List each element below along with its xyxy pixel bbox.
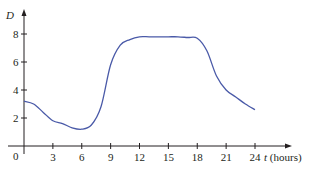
- origin-label: 0: [13, 150, 19, 162]
- x-tick-label: 3: [50, 151, 56, 163]
- y-tick-label: 4: [13, 84, 19, 96]
- x-tick-label: 6: [79, 151, 85, 163]
- x-tick-label: 12: [134, 151, 145, 163]
- y-tick-label: 6: [13, 56, 19, 68]
- y-ticks: 2468: [13, 28, 27, 124]
- x-tick-label: 24: [250, 151, 262, 163]
- x-tick-label: 18: [192, 151, 204, 163]
- x-tick-label: 15: [163, 151, 175, 163]
- x-axis-var: t: [264, 151, 268, 163]
- x-tick-label: 9: [108, 151, 114, 163]
- y-tick-label: 2: [13, 112, 19, 124]
- y-axis-arrow-icon: [22, 9, 27, 16]
- x-axis-label: t (hours): [264, 151, 302, 164]
- y-tick-label: 8: [13, 28, 19, 40]
- data-curve: [24, 37, 255, 130]
- chart-canvas: 2468 3691215182124 D 0 t (hours): [0, 0, 312, 170]
- x-tick-label: 21: [221, 151, 232, 163]
- x-axis-unit: (hours): [270, 151, 302, 164]
- x-axis-arrow-icon: [285, 144, 292, 149]
- y-axis-label: D: [5, 9, 14, 21]
